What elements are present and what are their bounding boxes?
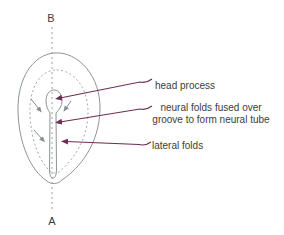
label-neural-folds-line1: neural folds fused over [150, 102, 272, 114]
embryo-neural-fold-diagram: B A head process neural folds fused over… [0, 0, 284, 235]
label-neural-folds-line2: groove to form neural tube [150, 114, 272, 126]
neural-tube-and-head-process-shape [46, 90, 62, 178]
leader-line-head-process [60, 79, 152, 98]
fold-direction-arrow-upper-right [66, 101, 71, 108]
fold-direction-arrow-lower-left [34, 130, 42, 139]
leader-line-lateral-folds [66, 142, 151, 145]
leader-line-neural-folds [60, 106, 152, 122]
axis-label-b: B [44, 13, 58, 24]
embryo-inner-fold-outline-dashed [30, 70, 88, 173]
label-head-process: head process [155, 80, 215, 92]
label-neural-folds: neural folds fused over groove to form n… [150, 102, 272, 126]
axis-label-a: A [45, 216, 59, 227]
label-lateral-folds: lateral folds [152, 140, 203, 152]
fold-direction-arrow-upper-left [31, 99, 39, 109]
